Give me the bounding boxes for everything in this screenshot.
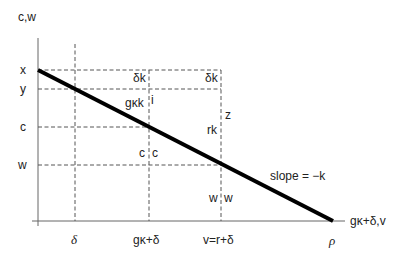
c-right-label: c: [152, 146, 158, 160]
x-tick-gk-delta: gκ+δ: [133, 233, 160, 247]
x-tick-delta: δ: [71, 232, 78, 247]
y-level-w: w: [17, 158, 27, 172]
w-right-label: w: [223, 191, 233, 205]
slope-line: [38, 70, 333, 221]
z-label: z: [225, 108, 231, 122]
x-tick-rho: ρ: [328, 233, 335, 248]
slope-label: slope = −k: [270, 169, 326, 183]
y-level-x: x: [20, 63, 26, 77]
delta-k-right: δk: [205, 71, 219, 85]
rk-label: rk: [207, 123, 218, 137]
gk-k-label: gκk: [125, 96, 145, 110]
y-axis-label: c,w: [18, 10, 36, 24]
growth-diagram: c,w gκ+δ,v x y c w δ gκ+δ v=r+δ ρ δk δk …: [0, 0, 412, 254]
delta-k-left: δk: [133, 71, 147, 85]
w-left-label: w: [208, 191, 218, 205]
x-axis-label: gκ+δ,v: [350, 214, 386, 228]
x-tick-v: v=r+δ: [203, 233, 234, 247]
y-level-c: c: [20, 120, 26, 134]
y-level-y: y: [20, 82, 26, 96]
c-left-label: c: [139, 146, 145, 160]
i-label: i: [151, 93, 154, 107]
